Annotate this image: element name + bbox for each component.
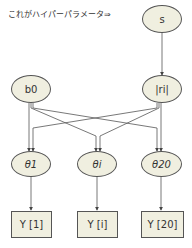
node-theta20: θ20 — [141, 151, 182, 177]
node-y1: Y [1] — [11, 211, 52, 238]
node-b0: b0 — [11, 75, 51, 103]
node-thetai: θi — [77, 151, 117, 177]
node-s: s — [142, 5, 182, 33]
edge-b0-theta20 — [33, 103, 157, 151]
node-yi: Y [i] — [77, 211, 118, 238]
edge-ri-theta1 — [33, 103, 157, 151]
hyperparameter-annotation: これがハイパーパラメータ⇒ — [8, 8, 111, 19]
node-theta1: θ1 — [11, 151, 51, 177]
node-ri: |ri| — [142, 75, 182, 103]
node-y20: Y [20] — [141, 211, 184, 238]
